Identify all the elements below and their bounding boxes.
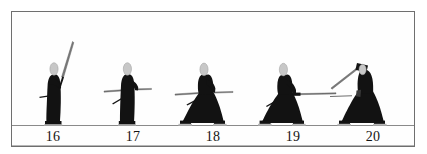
figure-caption-19: 19 xyxy=(253,127,333,146)
figure-caption-18: 18 xyxy=(173,127,253,146)
figure-caption-16: 16 xyxy=(13,127,93,146)
figure-plate: 16 17 18 19 20 xyxy=(0,0,427,154)
figure-caption-17: 17 xyxy=(93,127,173,146)
figure-caption-row: 16 17 18 19 20 xyxy=(13,127,413,146)
figure-caption-20: 20 xyxy=(333,127,413,146)
